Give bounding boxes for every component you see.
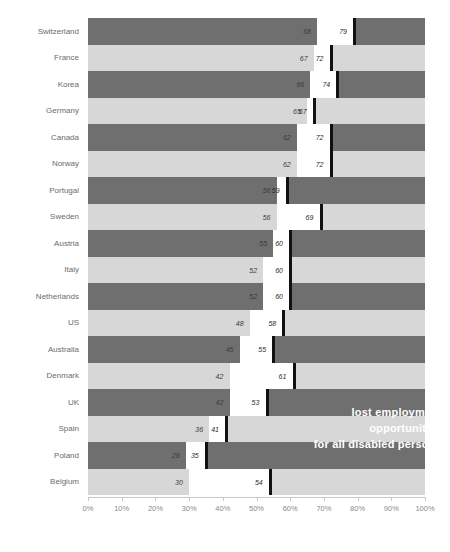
bar-value-end: 58 — [268, 319, 276, 326]
bar-value-start: 55 — [259, 240, 267, 247]
bar-value-end: 55 — [258, 346, 266, 353]
bar-segment — [297, 124, 331, 151]
category-label: US — [0, 310, 84, 337]
bar-value-start: 42 — [216, 399, 224, 406]
bar-end-cap — [269, 469, 272, 496]
bar-value-end: 60 — [275, 240, 283, 247]
bar-track — [88, 18, 425, 45]
category-label: Spain — [0, 416, 84, 443]
bar-row: 5260 — [88, 283, 425, 310]
bar-segment — [317, 18, 354, 45]
bar-value-start: 68 — [303, 28, 311, 35]
bar-value-end: 59 — [272, 187, 280, 194]
bar-track — [88, 45, 425, 72]
bar-row: 6674 — [88, 71, 425, 98]
bar-value-start: 45 — [226, 346, 234, 353]
bar-track — [88, 98, 425, 125]
bar-end-cap — [205, 442, 208, 469]
plot-area: 6879677266746567627262725659566955605260… — [88, 18, 425, 495]
bar-value-start: 52 — [249, 293, 257, 300]
bar-end-cap — [330, 124, 333, 151]
bar-end-cap — [330, 151, 333, 178]
bar-end-cap — [330, 45, 333, 72]
bar-value-start: 42 — [216, 372, 224, 379]
category-label: Belgium — [0, 469, 84, 496]
bar-value-end: 67 — [299, 107, 307, 114]
bar-value-end: 74 — [322, 81, 330, 88]
category-label: Korea — [0, 71, 84, 98]
bar-end-cap — [266, 389, 269, 416]
bar-row: 2935 — [88, 442, 425, 469]
bar-end-cap — [289, 230, 292, 257]
category-label: Austria — [0, 230, 84, 257]
axis-tick — [358, 497, 359, 501]
bar-end-cap — [282, 310, 285, 337]
category-label: Poland — [0, 442, 84, 469]
chart-container: SwitzerlandFranceKoreaGermanyCanadaNorwa… — [0, 0, 450, 552]
category-label: Switzerland — [0, 18, 84, 45]
bar-row: 6567 — [88, 98, 425, 125]
bar-end-cap — [336, 71, 339, 98]
bar-end-cap — [225, 416, 228, 443]
bar-value-start: 29 — [172, 452, 180, 459]
category-label: France — [0, 45, 84, 72]
bar-value-end: 60 — [275, 266, 283, 273]
bar-end-cap — [313, 98, 316, 125]
axis-tick — [189, 497, 190, 501]
bar-segment — [240, 336, 274, 363]
bar-end-cap — [289, 283, 292, 310]
axis-tick — [88, 497, 89, 501]
axis-tick — [290, 497, 291, 501]
category-label: UK — [0, 389, 84, 416]
bar-value-end: 69 — [306, 213, 314, 220]
bar-row: 5560 — [88, 230, 425, 257]
bar-end-cap — [353, 18, 356, 45]
bar-end-cap — [272, 336, 275, 363]
category-label: Australia — [0, 336, 84, 363]
axis-tick — [257, 497, 258, 501]
category-label: Canada — [0, 124, 84, 151]
bar-row: 5659 — [88, 177, 425, 204]
bar-value-start: 56 — [263, 213, 271, 220]
bar-row: 6879 — [88, 18, 425, 45]
axis-tick-label: 100% — [415, 504, 434, 513]
bar-value-end: 41 — [211, 425, 219, 432]
bar-end-cap — [320, 204, 323, 231]
bar-value-end: 35 — [191, 452, 199, 459]
bar-value-end: 79 — [339, 28, 347, 35]
axis-tick-label: 50% — [249, 504, 264, 513]
bar-value-end: 72 — [316, 134, 324, 141]
axis-tick-label: 60% — [283, 504, 298, 513]
bar-track — [88, 177, 425, 204]
bar-value-end: 53 — [252, 399, 260, 406]
axis-tick — [324, 497, 325, 501]
bar-value-start: 62 — [283, 134, 291, 141]
category-label: Netherlands — [0, 283, 84, 310]
bar-row: 3054 — [88, 469, 425, 496]
bar-row: 6772 — [88, 45, 425, 72]
bar-row: 6272 — [88, 124, 425, 151]
bar-end-cap — [289, 257, 292, 284]
axis-tick — [155, 497, 156, 501]
bar-segment — [277, 204, 321, 231]
bar-row: 5260 — [88, 257, 425, 284]
axis-tick — [223, 497, 224, 501]
bar-value-end: 54 — [255, 478, 263, 485]
bar-track — [88, 124, 425, 151]
bar-value-start: 48 — [236, 319, 244, 326]
bar-value-start: 30 — [175, 478, 183, 485]
bar-value-end: 72 — [316, 54, 324, 61]
bar-row: 4555 — [88, 336, 425, 363]
bar-track — [88, 230, 425, 257]
bar-track — [88, 204, 425, 231]
axis-tick — [122, 497, 123, 501]
bar-track — [88, 151, 425, 178]
bar-row: 4858 — [88, 310, 425, 337]
bar-row: 4253 — [88, 389, 425, 416]
axis-tick-label: 90% — [384, 504, 399, 513]
axis-tick-label: 10% — [114, 504, 129, 513]
bar-row: 3641 — [88, 416, 425, 443]
bar-end-cap — [293, 363, 296, 390]
category-axis: SwitzerlandFranceKoreaGermanyCanadaNorwa… — [0, 18, 84, 495]
bar-value-end: 61 — [279, 372, 287, 379]
